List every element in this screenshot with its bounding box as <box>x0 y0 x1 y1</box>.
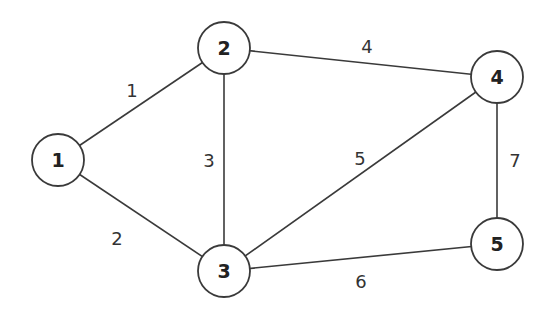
node-label-2: 2 <box>217 37 230 59</box>
node-label-5: 5 <box>490 233 503 255</box>
edge-weight-1-2: 1 <box>126 80 137 101</box>
node-label-4: 4 <box>490 66 503 88</box>
edge-weight-3-5: 6 <box>355 271 366 292</box>
node-3: 3 <box>198 245 250 297</box>
edge-1-2 <box>58 48 224 160</box>
edge-3-5 <box>224 244 497 271</box>
node-2: 2 <box>198 22 250 74</box>
edge-weight-2-3: 3 <box>203 150 214 171</box>
node-5: 5 <box>471 218 523 270</box>
nodes-group: 1 2 3 4 5 <box>32 22 523 297</box>
node-label-1: 1 <box>51 149 64 171</box>
edge-weight-4-5: 7 <box>509 150 520 171</box>
edges-group <box>58 48 497 271</box>
edge-weight-1-3: 2 <box>111 228 122 249</box>
edge-weight-2-4: 4 <box>361 36 372 57</box>
edge-weights-group: 1 2 3 4 5 6 7 <box>111 36 520 292</box>
graph-canvas: 1 2 3 4 5 6 7 1 2 3 4 5 <box>0 0 548 309</box>
edge-3-4 <box>224 77 497 271</box>
node-label-3: 3 <box>217 260 230 282</box>
node-1: 1 <box>32 134 84 186</box>
edge-1-3 <box>58 160 224 271</box>
edge-weight-3-4: 5 <box>354 148 365 169</box>
node-4: 4 <box>471 51 523 103</box>
